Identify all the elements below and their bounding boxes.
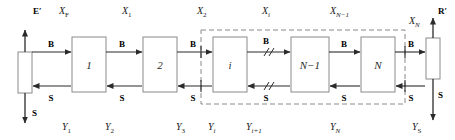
x-label-n-minus-1: XN−1 [329, 5, 349, 19]
raffinate-terminal-label: R′ [438, 6, 447, 16]
y-label-n: YN [330, 121, 341, 135]
s-stream-labels: S S S S S S [48, 93, 413, 103]
y-label-2-sub: 2 [111, 127, 115, 135]
y-label-i-plus-1-sub: i+1 [252, 127, 262, 135]
b-label-2: B [190, 39, 196, 49]
stage-label-i: i [228, 59, 231, 71]
extract-terminal-vessel [18, 52, 32, 93]
stage-label-1: 1 [86, 59, 92, 71]
diagram-canvas: 1 2 i N−1 N E′ S R′ S B B B B B B S S S … [0, 0, 455, 140]
cascade-diagram: 1 2 i N−1 N E′ S R′ S B B B B B B S S S … [0, 0, 455, 140]
s-label-3: S [190, 93, 195, 103]
x-label-1: X1 [121, 5, 132, 19]
y-label-2: Y2 [105, 121, 115, 135]
extract-terminal-label: E′ [33, 6, 42, 16]
x-label-f-sub: F [65, 11, 69, 19]
flow-break-marks [264, 48, 274, 90]
s-label-2: S [119, 93, 124, 103]
y-label-3: Y3 [176, 121, 186, 135]
b-label-i: B [263, 36, 269, 46]
y-label-s-sub: S [418, 127, 422, 135]
x-label-i: Xi [261, 5, 270, 19]
y-label-s: YS [412, 121, 422, 135]
raffinate-terminal [426, 18, 440, 120]
bottom-y-labels: Y1 Y2 Y3 Yi Yi+1 YN YS [62, 121, 422, 135]
y-label-i: Yi [208, 121, 216, 135]
raffinate-terminal-vessel [426, 38, 440, 79]
x-label-i-sub: i [268, 11, 270, 19]
s-label-n: S [408, 93, 413, 103]
b-label-n-minus-1: B [341, 39, 347, 49]
s-label-1: S [48, 93, 53, 103]
y-label-i-sub: i [214, 127, 216, 135]
x-label-2-sub: 2 [203, 11, 207, 19]
y-label-1-sub: 1 [68, 127, 72, 135]
top-x-labels: XF X1 X2 Xi XN−1 XN [58, 5, 420, 29]
x-label-n: XN [408, 15, 420, 29]
b-label-n: B [408, 39, 414, 49]
y-label-1: Y1 [62, 121, 72, 135]
b-stream-labels: B B B B B B [48, 36, 414, 49]
raffinate-solvent-label: S [438, 90, 443, 100]
y-label-i-plus-1: Yi+1 [246, 121, 262, 135]
stage-label-n: N [373, 59, 382, 71]
x-label-2: X2 [196, 5, 207, 19]
x-label-n-minus-1-sub: N−1 [335, 11, 349, 19]
s-label-i: S [263, 93, 268, 103]
extract-solvent-label: S [32, 108, 37, 118]
x-label-1-sub: 1 [128, 11, 132, 19]
b-label-1: B [119, 39, 125, 49]
b-label-feed: B [48, 39, 54, 49]
y-label-n-sub: N [335, 127, 341, 135]
stage-label-n-minus-1: N−1 [299, 59, 320, 71]
y-label-3-sub: 3 [182, 127, 186, 135]
x-label-n-sub: N [414, 21, 420, 29]
stage-label-2: 2 [157, 59, 163, 71]
s-label-n-minus-1: S [341, 93, 346, 103]
x-label-f: XF [58, 5, 69, 19]
extract-terminal [18, 30, 32, 123]
